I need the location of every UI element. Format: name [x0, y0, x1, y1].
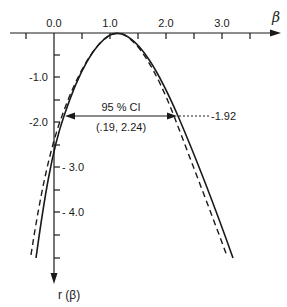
- x-axis-arrow-icon: [270, 30, 281, 37]
- likelihood-chart: 0.0 1.0 2.0 3.0 β -1.0 -2.0 - 3.0 - 4.0 …: [0, 0, 287, 307]
- y-tick-label: - 3.0: [62, 161, 84, 173]
- x-axis-ticks: [26, 33, 250, 39]
- y-tick-label: -2.0: [29, 116, 48, 128]
- likelihood-curve-solid: [36, 33, 233, 258]
- ci-interval: (.19, 2.24): [96, 121, 146, 133]
- ci-arrow: [65, 113, 177, 120]
- x-tick-label: 0.0: [46, 17, 61, 29]
- x-tick-label: 1.0: [102, 17, 117, 29]
- x-axis-label: β: [271, 9, 280, 25]
- arrow-left-icon: [65, 113, 75, 120]
- ci-title: 95 % CI: [101, 101, 140, 113]
- cutoff-label: -1.92: [211, 110, 236, 122]
- y-axis-label: r (β): [58, 288, 80, 302]
- x-tick-label: 3.0: [214, 17, 229, 29]
- y-tick-label: -1.0: [29, 71, 48, 83]
- x-tick-label: 2.0: [158, 17, 173, 29]
- y-axis-arrow-icon: [51, 273, 58, 284]
- x-axis: 0.0 1.0 2.0 3.0 β: [10, 9, 281, 39]
- approximation-curve-dashed: [31, 33, 227, 256]
- y-axis: -1.0 -2.0 - 3.0 - 4.0 r (β): [29, 33, 84, 302]
- y-axis-ticks: [54, 55, 60, 258]
- y-tick-label: - 4.0: [62, 206, 84, 218]
